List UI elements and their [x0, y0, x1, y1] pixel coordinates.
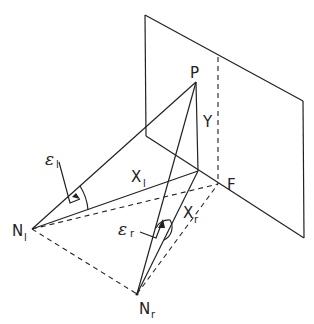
label-x-left-sub: l	[143, 178, 146, 189]
ray-nl-to-p	[32, 82, 196, 229]
label-epsilon-right: ε	[118, 219, 127, 239]
label-x-left: X	[131, 168, 141, 186]
image-plane	[145, 15, 304, 238]
label-x-right: X	[183, 204, 193, 222]
stereo-geometry-diagram: P Y F X l X r N l N r ε l ε r	[0, 0, 314, 324]
label-p: P	[190, 64, 199, 82]
label-node-left: N	[12, 222, 23, 240]
label-node-left-sub: l	[24, 232, 27, 243]
angle-left-arrowhead-icon	[72, 193, 80, 199]
label-epsilon-left: ε	[45, 149, 54, 169]
angle-arc-right	[156, 220, 172, 240]
angle-arc-left	[80, 186, 88, 210]
label-epsilon-right-sub: r	[130, 228, 135, 239]
height-line-y	[196, 82, 198, 171]
label-x-right-sub: r	[194, 214, 199, 225]
label-node-right: N	[139, 300, 150, 318]
label-f: F	[227, 176, 236, 194]
label-node-right-sub: r	[151, 309, 156, 320]
angle-right-pointer	[140, 225, 161, 238]
node-right-dot	[135, 292, 138, 295]
label-epsilon-left-sub: l	[56, 159, 59, 170]
label-y: Y	[202, 113, 213, 131]
